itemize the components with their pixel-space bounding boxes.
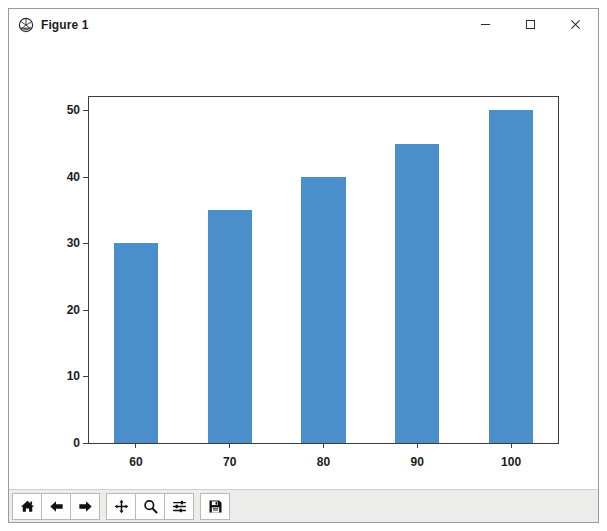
bar-chart-axes: 01020304050 60708090100 [88, 96, 559, 444]
bar-70 [208, 210, 252, 443]
window-controls [463, 9, 598, 40]
home-icon[interactable] [12, 493, 42, 520]
bar-slot [464, 97, 558, 443]
x-tick: 90 [370, 443, 464, 469]
zoom-magnifier-icon[interactable] [135, 493, 165, 520]
pan-move-icon[interactable] [106, 493, 136, 520]
bar-slot [89, 97, 183, 443]
toolbar-separator-2 [193, 493, 200, 520]
back-arrow-icon[interactable] [41, 493, 71, 520]
bar-slot [370, 97, 464, 443]
forward-arrow-icon[interactable] [70, 493, 100, 520]
x-tick-label: 100 [501, 455, 521, 469]
bar-100 [489, 110, 533, 443]
figure-window: Figure 1 01020304050 60708090100 [8, 8, 599, 523]
bar-series [89, 97, 558, 443]
y-tick-label: 30 [67, 236, 80, 250]
x-axis-ticks: 60708090100 [89, 443, 558, 469]
plot-area: 01020304050 60708090100 [89, 97, 558, 443]
x-tick: 80 [277, 443, 371, 469]
y-tick-label: 40 [67, 170, 80, 184]
toolbar-separator-1 [99, 493, 106, 520]
matplotlib-logo-icon [18, 17, 34, 33]
window-title-bar: Figure 1 [9, 9, 598, 40]
x-tick-mark [135, 443, 136, 448]
x-tick-label: 70 [223, 455, 236, 469]
figure-canvas[interactable]: 01020304050 60708090100 [9, 40, 598, 489]
x-tick-mark [417, 443, 418, 448]
bar-90 [395, 144, 439, 443]
close-button[interactable] [553, 9, 598, 40]
configure-subplots-sliders-icon[interactable] [164, 493, 194, 520]
bar-60 [114, 243, 158, 443]
bar-80 [301, 177, 345, 443]
x-tick-mark [511, 443, 512, 448]
maximize-button[interactable] [508, 9, 553, 40]
x-tick-mark [323, 443, 324, 448]
y-tick-label: 20 [67, 303, 80, 317]
y-tick-label: 0 [73, 436, 80, 450]
bar-slot [183, 97, 277, 443]
x-tick: 60 [89, 443, 183, 469]
navigation-toolbar [9, 489, 598, 522]
x-tick-mark [229, 443, 230, 448]
x-tick-label: 60 [129, 455, 142, 469]
y-tick-label: 50 [67, 103, 80, 117]
x-tick-label: 80 [317, 455, 330, 469]
minimize-button[interactable] [463, 9, 508, 40]
window-title: Figure 1 [41, 18, 88, 32]
x-tick: 70 [183, 443, 277, 469]
y-tick-label: 10 [67, 369, 80, 383]
x-tick: 100 [464, 443, 558, 469]
bar-slot [277, 97, 371, 443]
save-floppy-disk-icon[interactable] [200, 493, 230, 520]
x-tick-label: 90 [411, 455, 424, 469]
